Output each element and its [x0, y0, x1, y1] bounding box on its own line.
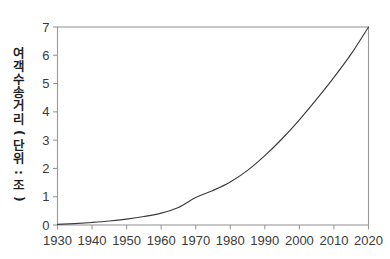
y-axis-title-char: ( [12, 130, 27, 136]
x-tick-label: 2000 [285, 233, 314, 248]
y-axis-title-char: 위 [13, 151, 25, 166]
y-axis-title: 여객수송거리(단위:조) [12, 46, 27, 202]
x-tick-label: 1980 [216, 233, 245, 248]
chart-container: 01234567 1930194019501960197019801990200… [0, 0, 390, 259]
y-tick-label: 1 [42, 189, 49, 204]
y-axis-title-char: 조 [13, 178, 25, 193]
x-tick-label: 1990 [250, 233, 279, 248]
x-tick-label: 1960 [147, 233, 176, 248]
y-axis-title-char: : [12, 170, 27, 175]
y-axis-title-char: ) [12, 196, 27, 202]
x-tick-label: 1930 [43, 233, 72, 248]
y-tick-label: 7 [42, 20, 49, 35]
x-tick-label: 1940 [78, 233, 107, 248]
y-tick-label: 2 [42, 161, 49, 176]
y-axis-title-char: 리 [13, 112, 25, 127]
y-tick-label: 4 [42, 104, 49, 119]
chart-background [0, 0, 390, 259]
x-tick-label: 2010 [319, 233, 348, 248]
y-tick-label: 6 [42, 48, 49, 63]
passenger-distance-line-chart: 01234567 1930194019501960197019801990200… [0, 0, 390, 259]
x-tick-label: 1950 [112, 233, 141, 248]
y-tick-label: 5 [42, 76, 49, 91]
y-tick-label: 3 [42, 133, 49, 148]
y-tick-label: 0 [42, 218, 49, 233]
x-tick-label: 2020 [354, 233, 383, 248]
x-tick-label: 1970 [181, 233, 210, 248]
